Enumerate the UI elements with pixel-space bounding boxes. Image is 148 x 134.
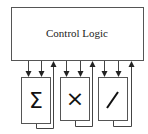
sum-unit: Σ bbox=[22, 61, 57, 129]
multiply-unit: × bbox=[61, 61, 96, 127]
arrow-down-icon bbox=[78, 71, 84, 77]
divide-unit: / bbox=[99, 61, 135, 127]
arrow-up-icon bbox=[129, 61, 135, 67]
control-logic-block: Control Logic bbox=[12, 8, 144, 61]
control-logic-label: Control Logic bbox=[46, 27, 108, 39]
sum-symbol: Σ bbox=[29, 88, 43, 113]
control-logic-diagram: Control Logic Σ × / bbox=[0, 0, 148, 134]
arrow-down-icon bbox=[39, 71, 45, 77]
arrow-down-icon bbox=[102, 71, 108, 77]
arrow-down-icon bbox=[26, 71, 32, 77]
arrow-down-icon bbox=[116, 71, 122, 77]
multiply-symbol: × bbox=[66, 86, 84, 111]
arrow-up-icon bbox=[51, 61, 57, 67]
arrow-down-icon bbox=[64, 71, 70, 77]
arrow-up-icon bbox=[90, 61, 96, 67]
